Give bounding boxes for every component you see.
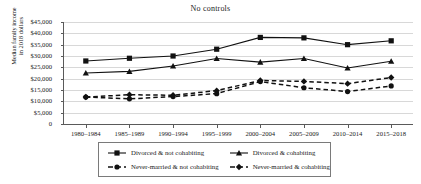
legend-item-divorced-cohabiting[interactable]: Divorced & cohabiting xyxy=(227,146,332,160)
legend-row: Divorced & not cohabiting Divorced & coh… xyxy=(99,146,332,160)
data-point-marker xyxy=(126,92,132,98)
x-axis-tick xyxy=(348,124,349,128)
x-axis-tick xyxy=(391,124,392,128)
data-point-marker xyxy=(83,94,89,100)
legend-swatch-diamond-dashed xyxy=(229,162,249,172)
data-point-marker xyxy=(301,78,307,84)
y-axis-tick-label: $25,000 xyxy=(8,63,52,70)
data-point-marker xyxy=(127,56,132,61)
data-point-marker xyxy=(235,164,241,170)
data-point-marker xyxy=(389,38,394,43)
x-axis-tick xyxy=(304,124,305,128)
legend-label: Divorced & cohabiting xyxy=(253,148,316,158)
data-point-marker xyxy=(344,80,350,86)
data-point-marker xyxy=(345,42,350,47)
y-axis-tick-label: $30,000 xyxy=(8,52,52,59)
y-axis-tick-label: $40,000 xyxy=(8,29,52,36)
data-point-marker xyxy=(170,53,175,58)
y-axis-tick-label: $35,000 xyxy=(8,41,52,48)
y-axis-tick-label: 0 xyxy=(8,120,52,127)
y-axis-tick-label: $15,000 xyxy=(8,86,52,93)
data-point-marker xyxy=(389,83,394,88)
legend-label: Divorced & not cohabiting xyxy=(131,148,204,158)
chart-figure: No controls Median family income in 2018… xyxy=(0,0,421,184)
y-axis-tick-label: $45,000 xyxy=(8,18,52,25)
y-axis-tick-label: $20,000 xyxy=(8,75,52,82)
data-point-marker xyxy=(114,150,119,155)
chart-legend: Divorced & not cohabiting Divorced & coh… xyxy=(98,142,331,177)
x-axis-tick-label: 2015–2018 xyxy=(363,130,419,137)
legend-label: Never-married & cohabiting xyxy=(253,162,330,172)
chart-title: No controls xyxy=(0,4,421,13)
data-point-marker xyxy=(214,47,219,52)
data-point-marker xyxy=(301,85,306,90)
legend-label: Never-married & not cohabiting xyxy=(131,162,219,172)
plot-area: 0$5,000$10,000$15,000$20,000$25,000$30,0… xyxy=(63,22,412,124)
y-axis-tick xyxy=(61,124,64,125)
legend-swatch-circle-dashed xyxy=(107,162,127,172)
data-point-marker xyxy=(345,89,350,94)
data-point-marker xyxy=(258,35,263,40)
y-axis-tick-label: $10,000 xyxy=(8,97,52,104)
data-point-marker xyxy=(83,58,88,63)
x-axis-tick xyxy=(86,124,87,128)
x-axis-tick xyxy=(260,124,261,128)
gridline xyxy=(64,124,413,125)
y-axis-tick-label: $5,000 xyxy=(8,109,52,116)
legend-row: Never-married & not cohabiting Never-mar… xyxy=(99,160,332,174)
legend-item-never-married-cohabiting[interactable]: Never-married & cohabiting xyxy=(227,160,332,174)
data-point-marker xyxy=(114,164,119,169)
series-0 xyxy=(83,35,394,64)
series-layer xyxy=(64,22,413,124)
legend-item-never-married-not-cohabiting[interactable]: Never-married & not cohabiting xyxy=(99,160,227,174)
x-axis-tick xyxy=(129,124,130,128)
x-axis-tick xyxy=(173,124,174,128)
legend-item-divorced-not-cohabiting[interactable]: Divorced & not cohabiting xyxy=(99,146,227,160)
legend-swatch-square-solid xyxy=(107,148,127,158)
data-point-marker xyxy=(301,35,306,40)
legend-swatch-triangle-solid xyxy=(229,148,249,158)
x-axis-tick xyxy=(217,124,218,128)
data-point-marker xyxy=(388,74,394,80)
